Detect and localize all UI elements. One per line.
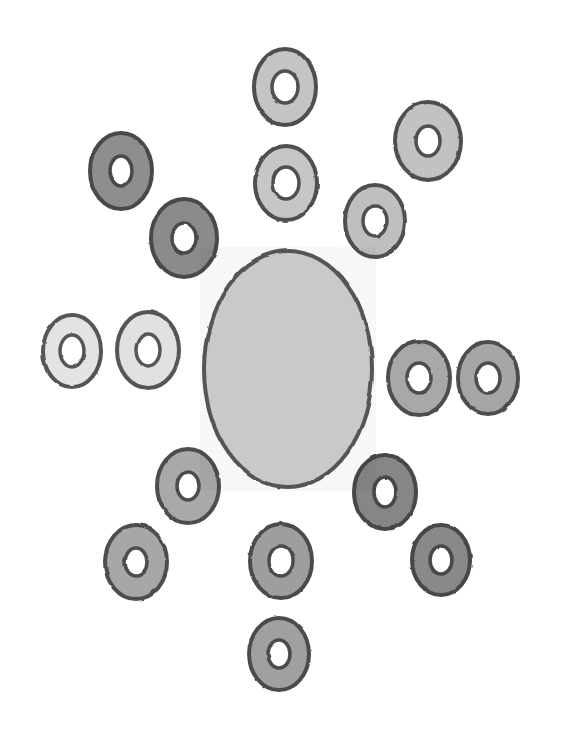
figure-svg: [0, 0, 574, 737]
ring-lower-right-inner: [354, 455, 416, 529]
ring-lower-right-inner-hole: [374, 477, 396, 507]
ring-upper-right-inner: [345, 185, 405, 257]
ring-upper-left-outer: [90, 133, 152, 209]
ring-upper-left-inner: [151, 199, 217, 277]
ring-lower-right-outer-hole: [430, 546, 452, 574]
ring-top-hole: [272, 71, 298, 103]
ring-upper-left-inner-hole: [172, 223, 196, 253]
ring-top: [254, 49, 316, 125]
ring-upper-left-outer-hole: [110, 156, 132, 186]
ring-lower-left-inner: [157, 449, 219, 523]
ring-right-inner-hole: [407, 363, 431, 393]
ring-right-outer: [458, 342, 518, 414]
ring-lower-left-outer: [105, 525, 167, 599]
ring-bottom-inner-hole: [269, 546, 293, 576]
ring-upper-right-outer: [395, 102, 461, 180]
ring-top-inner-hole: [273, 167, 299, 199]
ring-lower-right-outer: [412, 525, 470, 595]
ring-upper-right-inner-hole: [363, 206, 387, 236]
ring-lower-left-outer-hole: [125, 548, 147, 576]
ring-lower-left-inner-hole: [177, 472, 199, 500]
ring-left-outer-hole: [60, 335, 84, 367]
central-disc: [204, 251, 372, 487]
ring-bottom-inner: [250, 524, 312, 598]
ring-left-inner: [117, 312, 179, 388]
ring-bottom-outer: [249, 618, 309, 690]
ring-upper-right-outer-hole: [416, 126, 440, 156]
ring-left-outer: [43, 315, 101, 387]
ring-bottom-outer-hole: [268, 640, 290, 668]
ring-right-inner: [388, 341, 450, 415]
ring-left-inner-hole: [136, 334, 160, 366]
ring-right-outer-hole: [476, 363, 500, 393]
illustration-canvas: [0, 0, 574, 737]
core-layer: [204, 251, 372, 487]
ring-top-inner: [255, 146, 317, 220]
